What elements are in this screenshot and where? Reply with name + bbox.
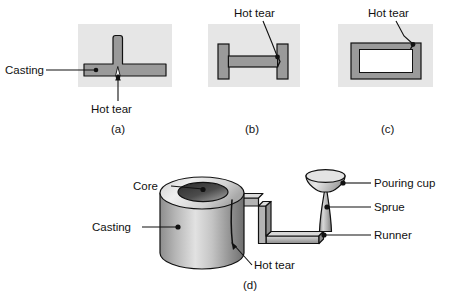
label-hot-tear-c: Hot tear — [368, 7, 409, 19]
sprue-shape-d — [320, 188, 332, 232]
caption-b: (b) — [245, 123, 259, 135]
label-hot-tear-a: Hot tear — [91, 103, 132, 115]
casting-web-b — [228, 56, 277, 67]
label-casting-d: Casting — [92, 221, 131, 233]
panel-b: Hot tear (b) — [208, 7, 300, 135]
panel-a: Casting Hot tear (a) — [5, 24, 172, 135]
panel-a-background — [78, 24, 172, 87]
casting-right-flange-b — [277, 44, 288, 79]
sprue-dot-d — [324, 204, 329, 209]
casting-leader-dot-d — [175, 224, 180, 229]
hot-tear-dot-c — [411, 42, 416, 47]
panel-d: Core Casting Hot tear Pouring cup Sprue — [92, 170, 435, 291]
label-runner-d: Runner — [374, 229, 412, 241]
runner-dot-d — [321, 232, 326, 237]
casting-leader-dot-a — [94, 68, 99, 73]
caption-d: (d) — [243, 279, 257, 291]
caption-c: (c) — [381, 123, 395, 135]
hot-tear-dot-a — [116, 75, 121, 80]
casting-left-flange-b — [218, 44, 229, 79]
label-pouring-cup-d: Pouring cup — [374, 177, 435, 189]
runner-shape-d — [266, 232, 324, 244]
hot-tear-leader-a — [115, 74, 121, 102]
panel-c: Hot tear (c) — [338, 7, 433, 135]
core-leader-dot-d — [200, 187, 205, 192]
pouring-cup-leader-d — [340, 180, 371, 185]
hot-tear-dot-b — [275, 55, 280, 60]
pouring-cup-rim-d — [306, 170, 345, 183]
label-casting-a: Casting — [5, 64, 44, 76]
caption-a: (a) — [111, 123, 125, 135]
label-hot-tear-d: Hot tear — [254, 259, 295, 271]
label-hot-tear-b: Hot tear — [234, 7, 275, 19]
hot-tear-figure: Casting Hot tear (a) Hot tear (b) — [0, 0, 473, 301]
label-core-d: Core — [133, 180, 158, 192]
runner-leader-d — [321, 232, 371, 237]
pouring-cup-dot-d — [340, 180, 345, 185]
sprue-leader-d — [324, 204, 371, 209]
casting-frame-inner-c — [360, 50, 413, 73]
label-sprue-d: Sprue — [374, 201, 405, 213]
